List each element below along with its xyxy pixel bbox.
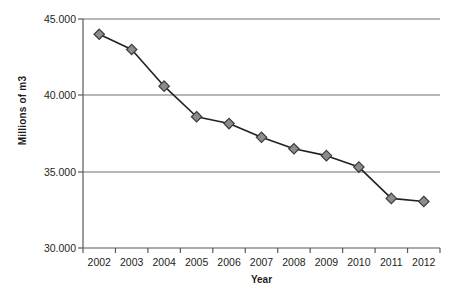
data-point bbox=[94, 29, 104, 39]
data-point bbox=[289, 144, 299, 154]
series-line bbox=[99, 34, 424, 201]
x-tick-label: 2006 bbox=[213, 256, 245, 272]
x-tick-label: 2008 bbox=[278, 256, 310, 272]
line-chart: Millions of m3 45.000 40.000 35.000 30.0… bbox=[0, 0, 458, 298]
x-tick-label: 2003 bbox=[115, 256, 147, 272]
x-tick-label: 2012 bbox=[408, 256, 440, 272]
x-tick-label: 2007 bbox=[245, 256, 277, 272]
data-point bbox=[419, 196, 429, 206]
x-tick-label: 2010 bbox=[343, 256, 375, 272]
x-tick-label: 2009 bbox=[310, 256, 342, 272]
x-tick-label: 2004 bbox=[148, 256, 180, 272]
x-tick-label: 2011 bbox=[375, 256, 407, 272]
x-axis-tick-labels: 2002 2003 2004 2005 2006 2007 2008 2009 … bbox=[83, 256, 440, 272]
gridlines bbox=[83, 19, 440, 172]
data-point bbox=[224, 118, 234, 128]
plot-area bbox=[0, 0, 458, 298]
data-point bbox=[256, 132, 266, 142]
x-tick-label: 2002 bbox=[83, 256, 115, 272]
x-axis-ticks bbox=[83, 248, 440, 253]
series-markers bbox=[94, 29, 429, 207]
x-axis-title: Year bbox=[83, 274, 440, 285]
y-axis-ticks bbox=[78, 19, 83, 248]
x-tick-label: 2005 bbox=[180, 256, 212, 272]
data-point bbox=[321, 150, 331, 160]
